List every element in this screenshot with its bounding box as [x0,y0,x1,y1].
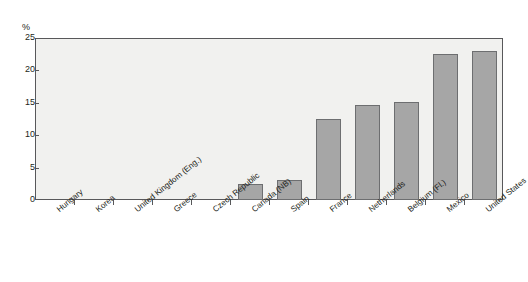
x-axis-tick-mark [308,200,309,205]
bar [355,105,379,200]
bars-layer [36,39,502,200]
y-axis-tick-mark [35,70,39,71]
y-axis-tick-label: 25 [13,33,35,42]
x-axis-tick-mark [230,200,231,205]
y-axis-tick-mark [35,135,39,136]
x-axis-labels: HungaryKoreaUnited Kingdom (Eng.)GreeceC… [0,200,517,282]
y-axis-tick-mark [35,103,39,104]
bar [472,51,496,200]
y-axis-tick-mark [35,168,39,169]
x-axis-tick-mark [425,200,426,205]
x-axis-tick-mark [347,200,348,205]
y-axis-tick-label: 10 [13,130,35,139]
y-axis-tick-label: 20 [13,65,35,74]
x-axis-tick-mark [464,200,465,205]
x-axis-tick-mark [74,200,75,205]
x-axis-tick-mark [269,200,270,205]
y-axis-tick-label: 15 [13,98,35,107]
bar [433,54,457,200]
x-axis-tick-mark [113,200,114,205]
y-axis-tick-label: 5 [13,163,35,172]
x-axis-tick-mark [386,200,387,205]
bar [316,119,340,200]
x-axis-tick-mark [191,200,192,205]
x-axis-tick-mark [152,200,153,205]
